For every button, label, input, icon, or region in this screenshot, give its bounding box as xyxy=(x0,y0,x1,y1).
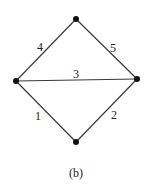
edge-label-2: 2 xyxy=(111,108,117,122)
graph-diagram: 1 2 3 4 5 (b) xyxy=(0,0,151,184)
edge-label-4: 4 xyxy=(37,40,43,54)
graph-figure: 1 2 3 4 5 (b) xyxy=(0,0,151,184)
edge-labels-group: 1 2 3 4 5 xyxy=(35,40,117,123)
node-bottom xyxy=(73,139,79,145)
edge-label-5: 5 xyxy=(110,41,116,55)
edge-label-1: 1 xyxy=(35,109,41,123)
edge-5 xyxy=(76,19,137,79)
edge-2 xyxy=(76,79,137,142)
node-left xyxy=(13,78,19,84)
figure-caption: (b) xyxy=(69,166,83,180)
edge-1 xyxy=(16,81,76,142)
edge-label-3: 3 xyxy=(73,67,79,81)
node-right xyxy=(134,76,140,82)
node-top xyxy=(73,16,79,22)
edge-4 xyxy=(16,19,76,81)
